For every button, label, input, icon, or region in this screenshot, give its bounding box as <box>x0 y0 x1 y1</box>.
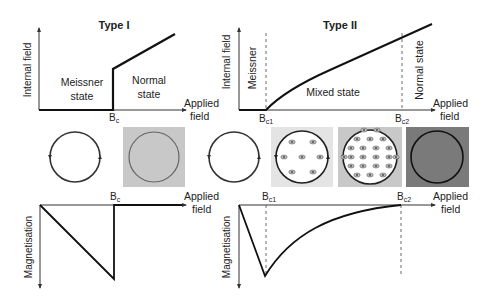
type2-top-xlabel-1: Applied <box>433 97 468 109</box>
type1-top-bc-label: Bc <box>109 112 120 124</box>
type2-top-ylabel: Internal field <box>221 35 232 89</box>
type1-meissner-label-2: state <box>71 90 94 102</box>
type1-normal-panel <box>123 127 185 187</box>
state-panels <box>48 127 469 187</box>
type1-normal-label-2: state <box>138 88 161 100</box>
type2-top-xlabel-2: field <box>440 110 459 122</box>
type1-internal-field-chart: Type I Internal field Meissner state Nor… <box>22 19 219 124</box>
type1-bottom-ylabel: Magnetisation <box>23 216 34 278</box>
type2-internal-field-chart: Type II Internal field Meissner Mixed st… <box>221 19 468 125</box>
type1-top-ylabel: Internal field <box>22 43 33 97</box>
type1-magnetisation-chart: Magnetisation Bc Applied field <box>23 190 219 288</box>
type2-mixed-label: Mixed state <box>306 86 360 98</box>
sample-circle <box>50 132 100 182</box>
type2-bottom-bc1-label: Bc1 <box>262 191 276 203</box>
sample-circle <box>209 132 259 182</box>
sample-circle <box>411 131 463 183</box>
type1-meissner-panel <box>48 132 102 182</box>
type2-bottom-xlabel-2: field <box>441 203 460 215</box>
type2-title: Type II <box>323 19 357 31</box>
sample-circle <box>129 132 179 182</box>
type1-top-xlabel-1: Applied <box>184 97 219 109</box>
superconductor-diagram: Type I Internal field Meissner state Nor… <box>0 0 488 303</box>
type1-top-xlabel-2: field <box>190 110 209 122</box>
type2-meissner-label: Meissner <box>246 46 258 89</box>
type2-bottom-ylabel: Magnetisation <box>221 216 232 278</box>
type2-normal-label: Normal state <box>413 40 425 100</box>
type1-bottom-bc-label: Bc <box>110 191 121 203</box>
type1-bottom-xlabel-2: field <box>192 203 211 215</box>
type2-bottom-xlabel-1: Applied <box>433 190 468 202</box>
type1-meissner-label-1: Meissner <box>61 76 104 88</box>
type1-bottom-xlabel-1: Applied <box>184 190 219 202</box>
type2-top-bc2-label: Bc2 <box>395 113 409 125</box>
type2-magnetisation-curve <box>239 205 401 276</box>
type1-title: Type I <box>99 19 130 31</box>
type2-mixed-low-panel <box>271 127 333 187</box>
type2-top-bc1-label: Bc1 <box>259 113 273 125</box>
type2-meissner-panel <box>207 132 261 182</box>
type1-normal-label-1: Normal <box>132 74 166 86</box>
type1-magnetisation-curve <box>40 205 182 279</box>
type2-mixed-high-panel <box>338 127 402 187</box>
type2-magnetisation-chart: Magnetisation Bc1 Bc2 Applied field <box>221 190 468 288</box>
type2-normal-panel <box>406 127 469 187</box>
type2-bottom-bc2-label: Bc2 <box>397 191 411 203</box>
